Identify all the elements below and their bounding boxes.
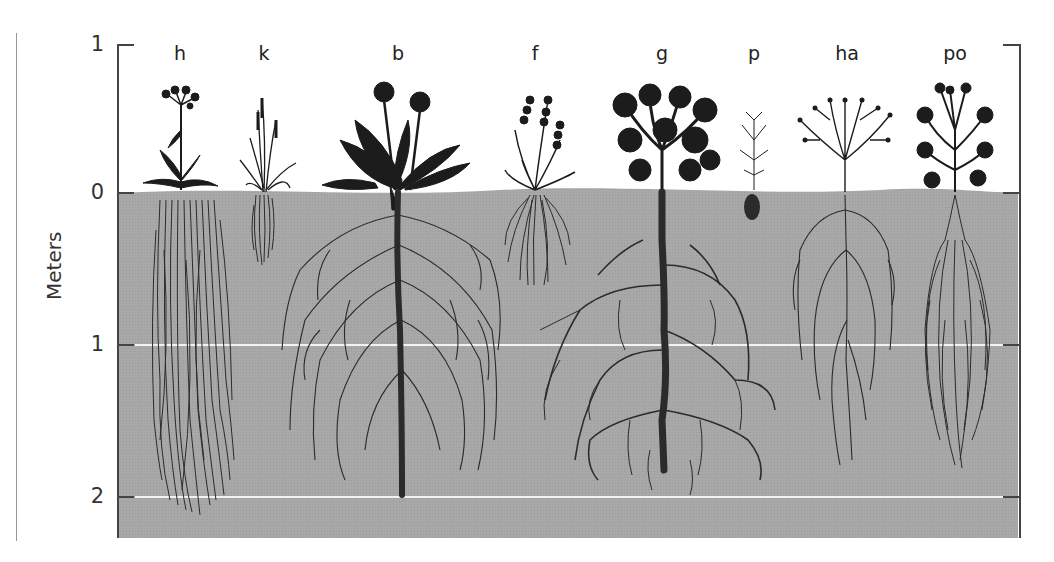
root-depth-diagram: Meters 1 0 1 2 h k b f g p ha po bbox=[0, 0, 1054, 562]
plant-po bbox=[917, 83, 993, 192]
plant-g bbox=[613, 84, 720, 192]
roots-p bbox=[744, 194, 760, 220]
plant-h bbox=[143, 86, 218, 190]
plant-k bbox=[240, 98, 296, 192]
plant-p bbox=[740, 112, 768, 190]
plant-ha bbox=[798, 98, 893, 193]
diagram-artwork bbox=[0, 0, 1054, 562]
plant-f bbox=[505, 96, 575, 190]
